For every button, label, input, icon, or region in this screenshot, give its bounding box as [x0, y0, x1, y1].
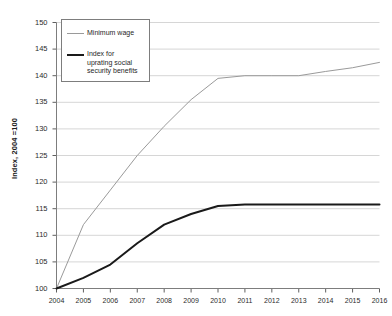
- y-axis-tick-marks: [53, 23, 57, 289]
- legend-item-benefits-index: Index for uprating social security benef…: [67, 50, 138, 76]
- x-axis-tick-marks: [57, 289, 380, 293]
- y-tick-label: 145: [22, 45, 48, 53]
- legend-label-minimum-wage: Minimum wage: [87, 29, 134, 38]
- y-tick-label: 125: [22, 152, 48, 160]
- y-tick-label: 130: [22, 125, 48, 133]
- y-axis-title: Index, 2004 =100: [10, 104, 19, 194]
- data-series: [57, 62, 380, 288]
- legend-line-swatch-grey-icon: [67, 33, 84, 34]
- y-tick-label: 100: [22, 285, 48, 293]
- legend-line-swatch-black-icon: [67, 54, 84, 56]
- legend-item-minimum-wage: Minimum wage: [67, 29, 134, 38]
- y-tick-label: 150: [22, 19, 48, 27]
- series-line: [57, 204, 380, 288]
- y-tick-label: 135: [22, 98, 48, 106]
- chart-legend: Minimum wage Index for uprating social s…: [61, 19, 150, 82]
- y-tick-label: 140: [22, 72, 48, 80]
- legend-label-benefits-index: Index for uprating social security benef…: [87, 50, 138, 76]
- y-tick-label: 105: [22, 258, 48, 266]
- series-line: [57, 62, 380, 288]
- y-tick-label: 115: [22, 205, 48, 213]
- y-tick-label: 120: [22, 178, 48, 186]
- y-tick-label: 110: [22, 231, 48, 239]
- x-tick-label: 2016: [363, 297, 392, 304]
